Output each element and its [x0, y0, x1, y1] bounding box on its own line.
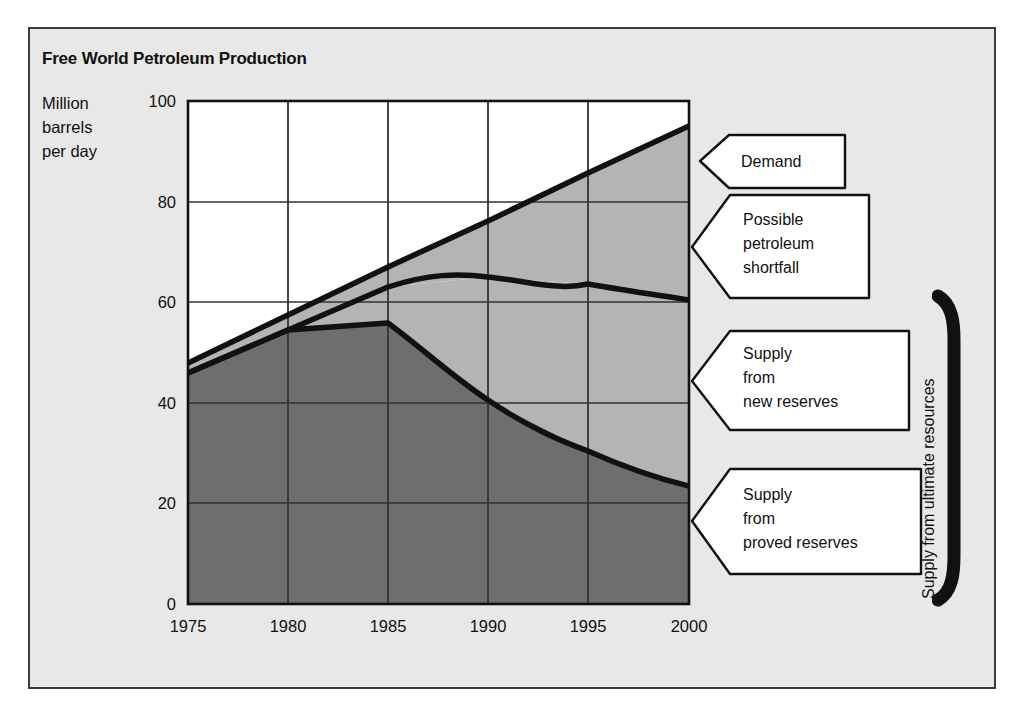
callout-supply-proved-reserves-label: Supply from proved reserves — [743, 483, 858, 555]
callout-supply-new-reserves-label: Supply from new reserves — [743, 342, 838, 414]
x-tick-1990: 1990 — [458, 617, 518, 636]
y-tick-80: 80 — [132, 193, 176, 212]
callout-possible-shortfall: Possible petroleum shortfall — [690, 193, 872, 305]
y-tick-40: 40 — [132, 394, 176, 413]
x-tick-1980: 1980 — [258, 617, 318, 636]
figure-frame: Free World Petroleum Production Million … — [28, 27, 996, 689]
y-tick-20: 20 — [132, 494, 176, 513]
callout-possible-shortfall-label: Possible petroleum shortfall — [743, 208, 814, 280]
callout-supply-new-reserves: Supply from new reserves — [690, 329, 912, 437]
x-tick-1975: 1975 — [158, 617, 218, 636]
y-tick-100: 100 — [132, 92, 176, 111]
callout-demand-label: Demand — [741, 150, 801, 174]
x-tick-1995: 1995 — [558, 617, 618, 636]
y-tick-60: 60 — [132, 293, 176, 312]
callout-supply-proved-reserves: Supply from proved reserves — [690, 467, 924, 581]
callout-demand: Demand — [698, 133, 848, 195]
y-tick-0: 0 — [132, 595, 176, 614]
x-tick-2000: 2000 — [659, 617, 719, 636]
x-tick-1985: 1985 — [358, 617, 418, 636]
ultimate-resources-bracket-label: Supply from ultimate resources — [920, 378, 938, 599]
